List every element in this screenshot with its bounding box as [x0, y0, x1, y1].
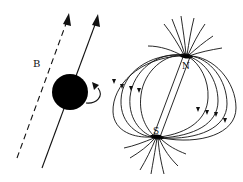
field-direction-arrows-icon	[112, 79, 227, 123]
field-lines-right	[160, 56, 236, 140]
field-lines-left	[113, 55, 183, 137]
rotation-arrow-icon	[86, 82, 100, 103]
left-panel: B	[17, 13, 100, 168]
field-lines-south-fan	[124, 138, 186, 174]
south-pole-label: S	[153, 126, 159, 136]
field-lines-north-fan	[148, 16, 222, 56]
b-field-label: B	[33, 58, 40, 69]
particle-sphere-icon	[52, 74, 88, 110]
north-pole-label: N	[182, 61, 190, 71]
right-panel	[112, 16, 236, 174]
spin-magnet-diagram: B	[0, 0, 243, 182]
